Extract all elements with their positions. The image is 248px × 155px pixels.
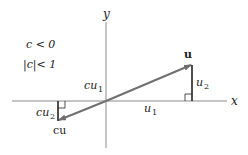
cu1-label: cu 1: [84, 79, 103, 94]
condition-abs-c-less-one: |c|< 1: [23, 58, 56, 72]
svg-text:1: 1: [98, 85, 103, 94]
svg-text:cu: cu: [36, 106, 49, 119]
vector-u: [106, 65, 191, 101]
vector-cu: [59, 101, 106, 120]
vector-scalar-multiple-diagram: y x c < 0 |c|< 1 u u 2 u 1 cu 1 cu 2 cu: [0, 0, 248, 155]
svg-text:2: 2: [204, 82, 209, 91]
cu2-label: cu 2: [36, 106, 55, 121]
svg-text:cu: cu: [53, 124, 66, 137]
vector-u-label: u: [184, 48, 192, 61]
vector-cu-label: cu: [53, 124, 66, 137]
svg-text:1: 1: [152, 108, 157, 117]
right-angle-marker-u: [185, 94, 192, 101]
x-axis-label: x: [231, 94, 238, 108]
svg-text:cu: cu: [84, 79, 97, 92]
y-axis-label: y: [102, 7, 110, 21]
svg-text:u: u: [144, 102, 151, 115]
right-angle-marker-cu: [58, 101, 65, 108]
svg-text:u: u: [196, 76, 203, 89]
u2-label: u 2: [196, 76, 209, 91]
svg-text:2: 2: [50, 112, 55, 121]
condition-c-negative: c < 0: [26, 38, 55, 51]
u1-label: u 1: [144, 102, 157, 117]
